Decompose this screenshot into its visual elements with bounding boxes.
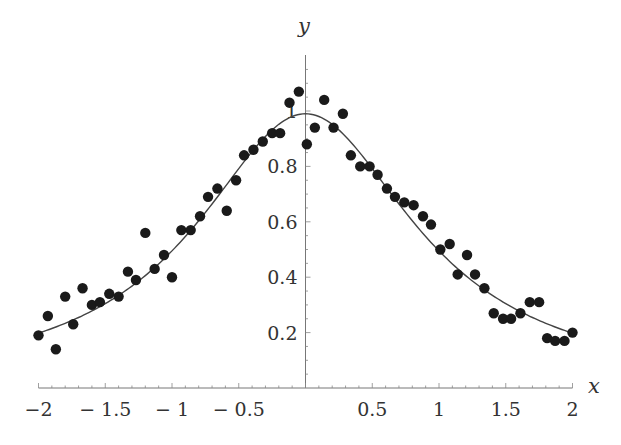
data-point [51, 344, 61, 354]
data-point [444, 239, 454, 249]
y-tick-label: 0.4 [267, 266, 297, 288]
data-point [534, 297, 544, 307]
data-point [248, 145, 258, 155]
data-point [212, 183, 222, 193]
data-point [426, 219, 436, 229]
data-point [231, 175, 241, 185]
data-point [328, 122, 338, 132]
data-point [462, 250, 472, 260]
data-point [559, 336, 569, 346]
y-tick-label: 0.8 [267, 155, 297, 177]
data-point [302, 139, 312, 149]
data-point [550, 336, 560, 346]
data-point [131, 275, 141, 285]
data-point [382, 183, 392, 193]
axes: −2− 1.5− 1− 0.50.511.520.20.40.60.81 [24, 55, 578, 420]
data-point [399, 197, 409, 207]
data-point [95, 297, 105, 307]
data-point [284, 97, 294, 107]
data-point [294, 86, 304, 96]
x-tick-label: 0.5 [357, 398, 387, 420]
data-point [239, 150, 249, 160]
data-point [113, 291, 123, 301]
data-point [452, 269, 462, 279]
data-point [479, 283, 489, 293]
y-tick-label: 0.2 [267, 322, 297, 344]
data-point [418, 211, 428, 221]
x-tick-label: − 1.5 [79, 398, 131, 420]
data-point [104, 289, 114, 299]
data-point [372, 170, 382, 180]
data-point [258, 136, 268, 146]
scatter-plot: −2− 1.5− 1− 0.50.511.520.20.40.60.81 x y [0, 0, 621, 445]
data-point [408, 200, 418, 210]
data-point [222, 206, 232, 216]
x-tick-label: −2 [24, 398, 52, 420]
data-point [310, 122, 320, 132]
y-tick-label: 0.6 [267, 211, 297, 233]
x-axis-label: x [588, 374, 600, 398]
x-tick-label: 1 [433, 398, 445, 420]
data-point [149, 264, 159, 274]
data-point [364, 161, 374, 171]
data-point [203, 192, 213, 202]
data-point [319, 95, 329, 105]
x-tick-label: 2 [566, 398, 578, 420]
y-axis-label: y [297, 14, 311, 38]
data-point [33, 330, 43, 340]
data-point [567, 327, 577, 337]
x-tick-label: 1.5 [491, 398, 521, 420]
data-point [43, 311, 53, 321]
data-point [123, 266, 133, 276]
data-point [159, 250, 169, 260]
data-point [77, 283, 87, 293]
data-point [338, 109, 348, 119]
data-point [489, 308, 499, 318]
x-tick-label: − 0.5 [213, 398, 265, 420]
data-point [355, 161, 365, 171]
data-point [195, 211, 205, 221]
data-point [167, 272, 177, 282]
data-point [470, 269, 480, 279]
data-point [176, 225, 186, 235]
data-point [506, 314, 516, 324]
data-point [275, 128, 285, 138]
data-point [525, 297, 535, 307]
data-point [185, 225, 195, 235]
data-point [68, 319, 78, 329]
data-point [346, 150, 356, 160]
data-point [390, 192, 400, 202]
data-point [60, 291, 70, 301]
data-point [515, 308, 525, 318]
x-tick-label: − 1 [155, 398, 189, 420]
data-point [435, 244, 445, 254]
data-point [140, 228, 150, 238]
